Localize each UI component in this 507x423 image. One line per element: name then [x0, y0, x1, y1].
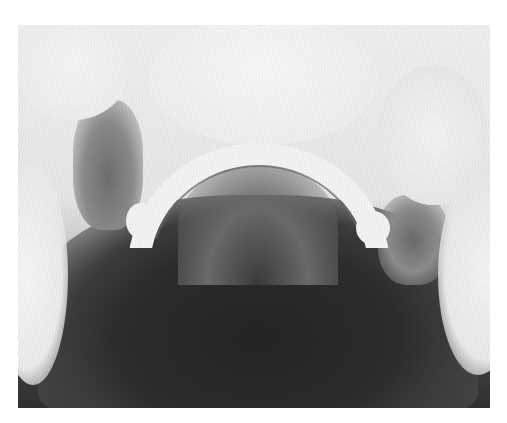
film-grain-texture: [18, 25, 490, 408]
dental-xray-image: [18, 25, 490, 408]
